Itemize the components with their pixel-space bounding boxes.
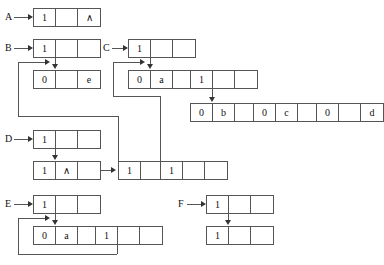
list-label-e: E — [5, 199, 11, 209]
node-d4-cell-2 — [205, 162, 227, 179]
node-c4[interactable]: 0 b — [190, 103, 258, 122]
node-b1[interactable]: 1 — [33, 39, 101, 58]
node-b1-cell-2 — [78, 40, 100, 57]
node-c5-cell-1: c — [276, 104, 298, 121]
node-c5[interactable]: 0 c — [253, 103, 321, 122]
list-label-b: B — [5, 43, 12, 53]
node-b2-cell-2: e — [78, 71, 100, 88]
node-d4-cell-0: 1 — [161, 162, 183, 179]
list-label-f: F — [178, 199, 184, 209]
node-e1[interactable]: 1 — [33, 195, 101, 214]
node-d3-cell-0: 1 — [119, 162, 141, 179]
entry-line-b — [14, 48, 29, 49]
backedge-e-top — [18, 218, 46, 219]
pointer-arrow-c1-c2 — [147, 64, 153, 69]
node-d2-cell-0: 1 — [34, 162, 56, 179]
list-label-a: A — [5, 12, 12, 22]
pointer-arrow-d2-d3 — [111, 167, 116, 173]
pointer-arrow-c3-c4 — [209, 97, 215, 102]
node-e3-cell-2 — [140, 227, 162, 244]
node-c4-cell-0: 0 — [191, 104, 213, 121]
node-c5-cell-0: 0 — [254, 104, 276, 121]
node-e3-cell-1 — [118, 227, 140, 244]
node-f1-cell-1 — [229, 196, 251, 213]
node-c4-cell-1: b — [213, 104, 235, 121]
node-b2-cell-0: 0 — [34, 71, 56, 88]
pointer-arrow-f1-f2 — [225, 220, 231, 225]
node-f2-cell-1 — [229, 227, 251, 244]
node-d2-cell-2 — [78, 162, 100, 179]
node-d1-cell-2 — [78, 131, 100, 148]
node-d1-cell-1 — [56, 131, 78, 148]
node-e2-cell-1: a — [56, 227, 78, 244]
list-label-c: C — [103, 43, 110, 53]
pointer-arrow-d1-d2 — [52, 155, 58, 160]
entry-line-a — [14, 17, 29, 18]
backedge-c-arrow — [140, 59, 145, 65]
backedge-e-bottom — [18, 254, 117, 255]
node-a1-cell-1 — [56, 9, 78, 26]
node-f2-cell-0: 1 — [207, 227, 229, 244]
node-e1-cell-2 — [78, 196, 100, 213]
backedge-b-vert — [18, 62, 19, 116]
node-f2-cell-2 — [251, 227, 273, 244]
backedge-b-top — [18, 62, 46, 63]
node-b1-cell-1 — [56, 40, 78, 57]
node-e1-cell-1 — [56, 196, 78, 213]
node-c1[interactable]: 1 — [128, 39, 196, 58]
node-d1-cell-0: 1 — [34, 131, 56, 148]
node-a1-cell-0: 1 — [34, 9, 56, 26]
backedge-b-arrow — [45, 59, 50, 65]
node-a1-cell-2: ∧ — [78, 9, 100, 26]
node-c6-cell-2: d — [361, 104, 383, 121]
node-e2-cell-0: 0 — [34, 227, 56, 244]
node-c3-cell-0: 1 — [191, 71, 213, 88]
node-c3[interactable]: 1 — [190, 70, 258, 89]
entry-line-d — [14, 139, 29, 140]
backedge-e-arrow — [45, 215, 50, 221]
node-b2-cell-1 — [56, 71, 78, 88]
node-f1-cell-2 — [251, 196, 273, 213]
pointer-arrow-b1-b2 — [52, 64, 58, 69]
node-d4-cell-1 — [183, 162, 205, 179]
node-c6-cell-0: 0 — [317, 104, 339, 121]
node-e1-cell-0: 1 — [34, 196, 56, 213]
list-label-d: D — [5, 134, 12, 144]
node-c6[interactable]: 0 d — [316, 103, 384, 122]
backedge-c-vert — [113, 62, 114, 96]
backedge-b-bottom — [18, 116, 118, 117]
node-b1-cell-0: 1 — [34, 40, 56, 57]
node-d1[interactable]: 1 — [33, 130, 101, 149]
node-a1[interactable]: 1 ∧ — [33, 8, 101, 27]
node-e3-cell-0: 1 — [96, 227, 118, 244]
node-f1[interactable]: 1 — [206, 195, 274, 214]
node-c3-cell-2 — [235, 71, 257, 88]
pointer-arrow-e1-e2 — [52, 220, 58, 225]
entry-line-f — [187, 204, 202, 205]
node-c2-cell-0: 0 — [129, 71, 151, 88]
node-f2[interactable]: 1 — [206, 226, 274, 245]
entry-line-e — [14, 204, 29, 205]
backedge-c-bottom — [113, 96, 160, 97]
node-c1-cell-2 — [173, 40, 195, 57]
backedge-e-vert — [18, 218, 19, 254]
backedge-b-drop — [118, 116, 119, 161]
backedge-c-drop — [160, 96, 161, 161]
node-d2-cell-1: ∧ — [56, 162, 78, 179]
node-d2[interactable]: 1 ∧ — [33, 161, 101, 180]
node-d4[interactable]: 1 — [160, 161, 228, 180]
node-c3-cell-1 — [213, 71, 235, 88]
node-b2[interactable]: 0 e — [33, 70, 101, 89]
node-e2[interactable]: 0 a — [33, 226, 101, 245]
node-c1-cell-0: 1 — [129, 40, 151, 57]
node-e3[interactable]: 1 — [95, 226, 163, 245]
backedge-c-top — [113, 62, 141, 63]
node-c1-cell-1 — [151, 40, 173, 57]
node-f1-cell-0: 1 — [207, 196, 229, 213]
node-c6-cell-1 — [339, 104, 361, 121]
node-c2[interactable]: 0 a — [128, 70, 196, 89]
node-c2-cell-1: a — [151, 71, 173, 88]
